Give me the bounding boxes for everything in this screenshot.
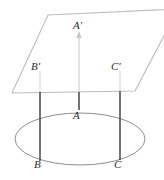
label-c: C: [114, 159, 121, 170]
label-a: A: [73, 110, 80, 121]
label-c-prime: C′: [111, 61, 121, 72]
geometry-figure: A′ B′ C′ A B C: [0, 0, 164, 180]
plane-parallelogram: [12, 9, 164, 93]
arrowhead-icon: [76, 31, 81, 38]
label-b-prime: B′: [31, 61, 40, 72]
label-b: B: [34, 159, 41, 170]
label-a-prime: A′: [73, 20, 82, 31]
plane-outline: [12, 9, 164, 93]
